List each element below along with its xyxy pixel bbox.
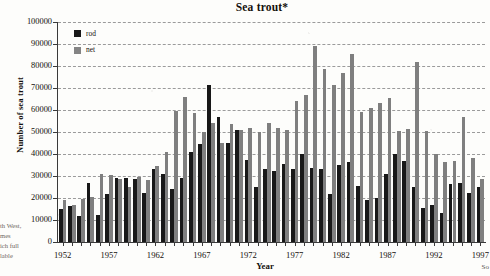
bar-net [304,95,308,242]
bar-net [155,166,159,242]
x-axis-tick [276,242,277,246]
x-axis-tick-label: 1992 [425,250,442,260]
y-axis-tick-label: 20000 [31,194,52,202]
chart-page: th West, mes ich full lable So Sea trout… [0,0,490,276]
bar-net [453,161,457,242]
x-axis-tick [183,242,184,246]
x-axis-tick [332,242,333,246]
bar-group [262,22,271,242]
x-axis-tick [230,242,231,246]
x-axis-tick [258,242,259,246]
x-axis-tick [146,242,147,246]
bar-net [193,113,197,242]
bar-group [327,22,336,242]
bar-net [360,112,364,242]
bar-net [239,130,243,242]
legend-item-rod: rod [74,30,96,37]
x-axis-tick [90,242,91,246]
bar-net [63,200,67,242]
bar-net [378,103,382,242]
bar-series-container [58,22,485,242]
x-axis-tick [137,242,138,246]
x-axis-tick-label: 1972 [240,250,257,260]
y-axis-tick-label: 80000 [31,62,52,70]
bar-group [429,22,438,242]
x-axis-line [57,242,486,243]
bar-group [188,22,197,242]
bar-net [230,124,234,242]
bar-group [439,22,448,242]
bar-group [336,22,345,242]
bar-net [388,98,392,242]
bar-net [220,143,224,242]
x-axis-tick [174,242,175,246]
x-axis-title: Year [40,261,490,271]
bar-net [165,152,169,242]
x-axis-tick [155,242,156,246]
bar-group [225,22,234,242]
y-axis-tick-label: 50000 [31,128,52,136]
bar-group [318,22,327,242]
y-axis-tick-label: 60000 [31,106,52,114]
bar-net [295,101,299,242]
bar-net [406,129,410,242]
bar-net [202,132,206,242]
bar-group [160,22,169,242]
bar-net [128,187,132,242]
bar-group [104,22,113,242]
bar-net [462,117,466,242]
bar-group [169,22,178,242]
bar-net [211,123,215,242]
x-axis-tick [313,242,314,246]
bar-group [207,22,216,242]
bar-group [244,22,253,242]
y-axis-tick-label: 0 [48,238,52,246]
bar-net [137,177,141,242]
plot-area: 0100002000030000400005000060000700008000… [58,22,485,242]
bar-net [350,54,354,242]
bar-group [234,22,243,242]
x-axis-tick [109,242,110,246]
bar-group [272,22,281,242]
x-axis-tick [323,242,324,246]
x-axis-tick [295,242,296,246]
bar-group [151,22,160,242]
x-axis-tick [128,242,129,246]
x-axis-tick [63,242,64,246]
y-axis-tick-label: 90000 [31,40,52,48]
bar-group [290,22,299,242]
x-axis-tick [118,242,119,246]
x-axis-tick [248,242,249,246]
bar-group [346,22,355,242]
x-axis-tick [453,242,454,246]
bar-group [476,22,485,242]
bar-group [253,22,262,242]
bar-group [374,22,383,242]
x-axis-tick [304,242,305,246]
chart-title: Sea trout* [0,1,490,13]
x-axis-tick [415,242,416,246]
y-axis-title: Number of sea trout [15,45,25,185]
x-axis-tick [425,242,426,246]
bar-group [457,22,466,242]
bar-net [258,132,262,242]
bar-group [383,22,392,242]
bar-group [420,22,429,242]
x-axis-tick [165,242,166,246]
bar-group [355,22,364,242]
bar-net [109,175,113,242]
x-axis-tick [267,242,268,246]
y-axis-tick-label: 10000 [31,216,52,224]
x-axis-tick [341,242,342,246]
bleed-text-line-3: ich full [0,242,19,249]
bar-group [309,22,318,242]
x-axis-tick [397,242,398,246]
bar-net [248,128,252,242]
x-axis-tick-label: 1952 [54,250,71,260]
bar-net [118,179,122,242]
legend: rod net [74,30,96,63]
bar-group [95,22,104,242]
x-axis-tick [360,242,361,246]
bar-net [443,162,447,242]
legend-label-net: net [86,46,95,53]
